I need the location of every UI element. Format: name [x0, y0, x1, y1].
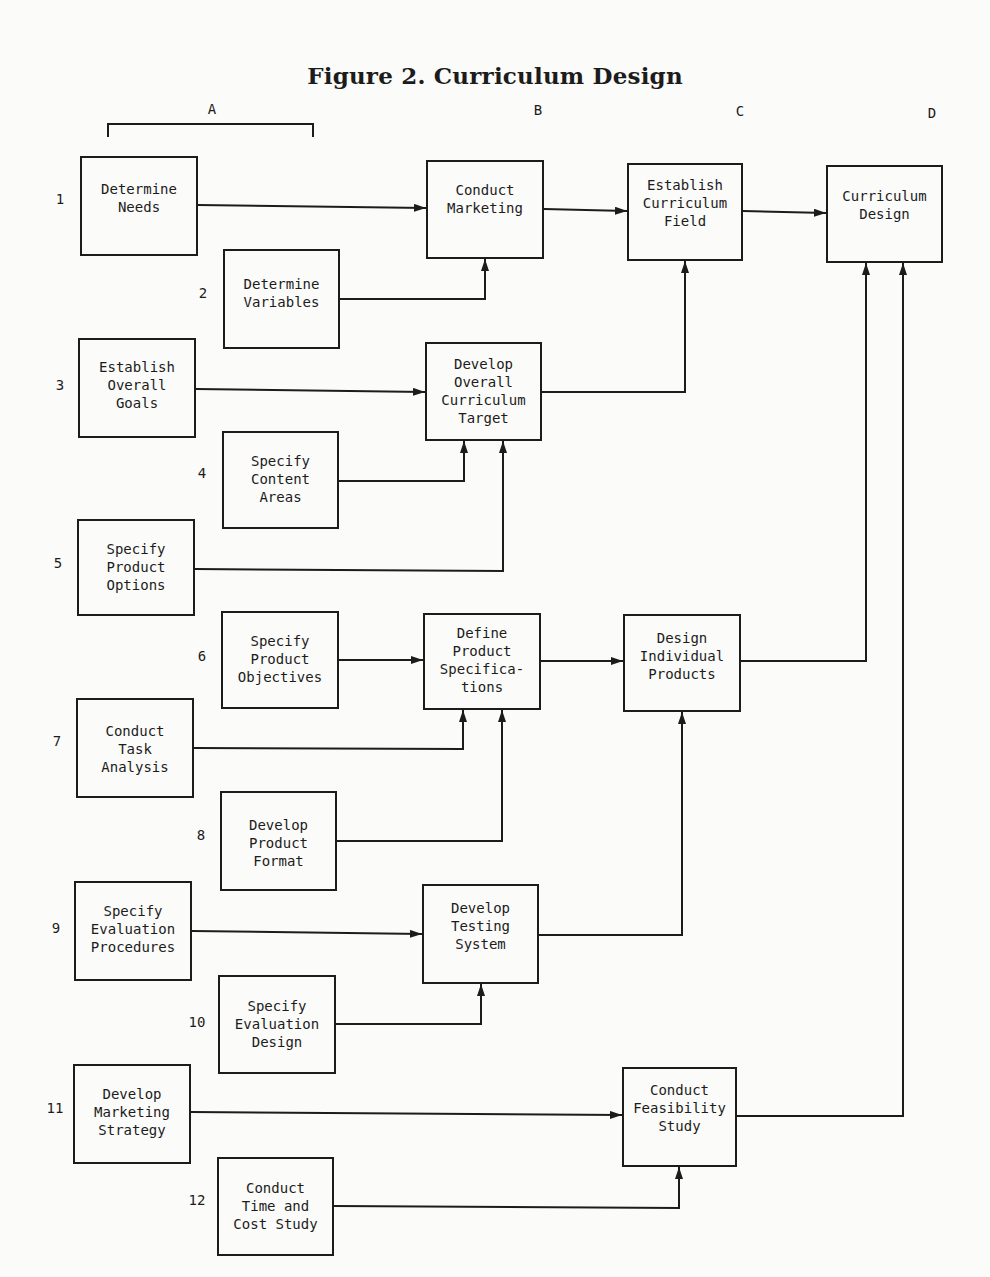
connector-specify-evaluation-procedures-to-develop-testing-system: [192, 931, 422, 934]
box-specify-evaluation-procedures[interactable]: SpecifyEvaluationProcedures: [74, 881, 192, 981]
connector-conduct-feasibility-study-to-curriculum-design: [737, 263, 903, 1116]
box-label-line: Format: [253, 852, 304, 870]
box-label-line: Curriculum: [842, 187, 926, 205]
box-establish-overall-goals[interactable]: EstablishOverallGoals: [78, 338, 196, 438]
box-label-line: Variables: [244, 293, 320, 311]
box-curriculum-design[interactable]: CurriculumDesign: [826, 165, 943, 263]
box-label-line: Task: [118, 740, 152, 758]
box-label-line: Analysis: [101, 758, 168, 776]
column-label-a: A: [208, 101, 216, 117]
box-determine-needs[interactable]: DetermineNeeds: [80, 156, 198, 256]
column-label-d: D: [928, 105, 936, 121]
connector-conduct-marketing-to-establish-curriculum-field: [544, 209, 627, 211]
box-label-line: Objectives: [238, 668, 322, 686]
box-label-line: Goals: [116, 394, 158, 412]
box-label-line: Design: [657, 629, 708, 647]
box-label-line: Specify: [250, 632, 309, 650]
row-label-11: 11: [47, 1100, 64, 1116]
box-label-line: Marketing: [94, 1103, 170, 1121]
box-label-line: Product: [249, 834, 308, 852]
box-label-line: Develop: [451, 899, 510, 917]
figure-title: Figure 2. Curriculum Design: [0, 62, 990, 89]
box-design-individual-products[interactable]: DesignIndividualProducts: [623, 614, 741, 712]
connector-develop-product-format-to-define-product-specifications: [337, 710, 502, 841]
box-label-line: Specify: [106, 540, 165, 558]
box-label-line: Conduct: [105, 722, 164, 740]
column-a-bracket: [107, 123, 314, 137]
box-label-line: Content: [251, 470, 310, 488]
box-specify-product-options[interactable]: SpecifyProductOptions: [77, 519, 195, 616]
connector-establish-curriculum-field-to-curriculum-design: [743, 211, 826, 213]
row-label-1: 1: [56, 191, 64, 207]
box-label-line: Develop: [102, 1085, 161, 1103]
connector-conduct-time-and-cost-study-to-conduct-feasibility-study: [334, 1167, 679, 1208]
box-label-line: Strategy: [98, 1121, 165, 1139]
box-label-line: Specify: [103, 902, 162, 920]
box-label-line: Product: [250, 650, 309, 668]
box-label-line: Develop: [454, 355, 513, 373]
connector-specify-evaluation-design-to-develop-testing-system: [336, 984, 481, 1024]
row-label-2: 2: [199, 285, 207, 301]
box-develop-marketing-strategy[interactable]: DevelopMarketingStrategy: [73, 1064, 191, 1164]
box-establish-curriculum-field[interactable]: EstablishCurriculumField: [627, 163, 743, 261]
box-label-line: Develop: [249, 816, 308, 834]
row-label-6: 6: [198, 648, 206, 664]
box-label-line: Define: [457, 624, 508, 642]
box-label-line: tions: [461, 678, 503, 696]
box-label-line: Areas: [259, 488, 301, 506]
box-label-line: Needs: [118, 198, 160, 216]
box-label-line: Determine: [244, 275, 320, 293]
box-develop-testing-system[interactable]: DevelopTestingSystem: [422, 884, 539, 984]
box-label-line: Establish: [99, 358, 175, 376]
row-label-4: 4: [198, 465, 206, 481]
box-label-line: Field: [664, 212, 706, 230]
box-label-line: Conduct: [246, 1179, 305, 1197]
column-label-c: C: [736, 103, 744, 119]
box-label-line: Individual: [640, 647, 724, 665]
connector-determine-needs-to-conduct-marketing: [198, 205, 426, 208]
box-label-line: Products: [648, 665, 715, 683]
connector-establish-overall-goals-to-develop-overall-curriculum-target: [196, 389, 425, 392]
box-label-line: Procedures: [91, 938, 175, 956]
box-determine-variables[interactable]: DetermineVariables: [223, 249, 340, 349]
column-label-b: B: [534, 102, 542, 118]
box-label-line: Time and: [242, 1197, 309, 1215]
box-label-line: Curriculum: [643, 194, 727, 212]
box-label-line: Specifica-: [440, 660, 524, 678]
box-label-line: Study: [658, 1117, 700, 1135]
connector-develop-marketing-strategy-to-conduct-feasibility-study: [191, 1112, 622, 1115]
box-label-line: Cost Study: [233, 1215, 317, 1233]
box-conduct-marketing[interactable]: ConductMarketing: [426, 160, 544, 259]
box-label-line: Feasibility: [633, 1099, 726, 1117]
box-specify-content-areas[interactable]: SpecifyContentAreas: [222, 431, 339, 529]
box-label-line: Establish: [647, 176, 723, 194]
box-label-line: System: [455, 935, 506, 953]
connector-determine-variables-to-conduct-marketing: [340, 259, 485, 299]
box-develop-product-format[interactable]: DevelopProductFormat: [220, 791, 337, 891]
connector-conduct-task-analysis-to-define-product-specifications: [194, 710, 463, 749]
row-label-8: 8: [197, 827, 205, 843]
box-label-line: Evaluation: [91, 920, 175, 938]
box-specify-product-objectives[interactable]: SpecifyProductObjectives: [221, 611, 339, 709]
box-conduct-time-and-cost-study[interactable]: ConductTime andCost Study: [217, 1157, 334, 1256]
box-conduct-task-analysis[interactable]: ConductTaskAnalysis: [76, 698, 194, 798]
box-label-line: Determine: [101, 180, 177, 198]
box-label-line: Conduct: [650, 1081, 709, 1099]
box-specify-evaluation-design[interactable]: SpecifyEvaluationDesign: [218, 975, 336, 1074]
box-develop-overall-curriculum-target[interactable]: DevelopOverallCurriculumTarget: [425, 342, 542, 441]
box-conduct-feasibility-study[interactable]: ConductFeasibilityStudy: [622, 1067, 737, 1167]
connector-develop-testing-system-to-design-individual-products: [539, 712, 682, 935]
box-label-line: Target: [458, 409, 509, 427]
row-label-9: 9: [52, 920, 60, 936]
connector-design-individual-products-to-curriculum-design: [741, 263, 866, 661]
box-label-line: Conduct: [455, 181, 514, 199]
box-label-line: Curriculum: [441, 391, 525, 409]
box-define-product-specifications[interactable]: DefineProductSpecifica-tions: [423, 613, 541, 710]
box-label-line: Design: [859, 205, 910, 223]
connector-specify-content-areas-to-develop-overall-curriculum-target: [339, 441, 464, 481]
box-label-line: Overall: [107, 376, 166, 394]
box-label-line: Product: [106, 558, 165, 576]
box-label-line: Specify: [247, 997, 306, 1015]
row-label-10: 10: [189, 1014, 206, 1030]
connector-develop-overall-curriculum-target-to-establish-curriculum-field: [542, 261, 685, 392]
